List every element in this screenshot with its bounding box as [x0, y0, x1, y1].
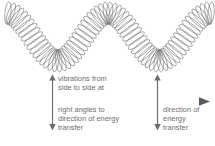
right-angles-label: right angles todirection of energytransf…: [58, 105, 119, 133]
wave-diagram: vibrations fromside to side at right ang…: [0, 0, 215, 146]
vibration-direction-label: vibrations fromside to side at: [58, 74, 107, 92]
energy-transfer-label: direction ofenergytransfer: [163, 105, 199, 133]
